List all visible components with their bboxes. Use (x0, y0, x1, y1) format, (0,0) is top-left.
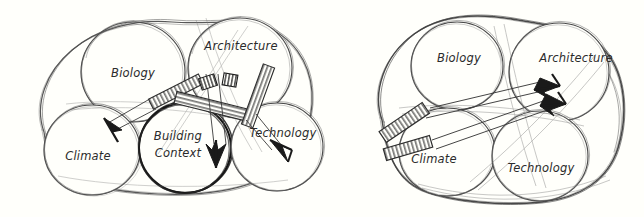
label-architecture-right: Architecture (538, 51, 612, 65)
label-building-context-line2-left: Context (155, 146, 202, 160)
label-architecture-left: Architecture (203, 39, 277, 53)
label-technology-right: Technology (508, 161, 575, 175)
label-building-context-line1-left: Building (154, 129, 202, 143)
label-biology-left: Biology (111, 66, 155, 80)
label-climate-right: Climate (411, 152, 457, 166)
label-biology-right: Biology (437, 51, 481, 65)
diagram-canvas: Biology Architecture Climate Building Co… (0, 0, 644, 217)
sketch-diagram-figure: Biology Architecture Climate Building Co… (0, 0, 644, 217)
label-technology-left: Technology (250, 126, 317, 140)
label-climate-left: Climate (65, 149, 111, 163)
